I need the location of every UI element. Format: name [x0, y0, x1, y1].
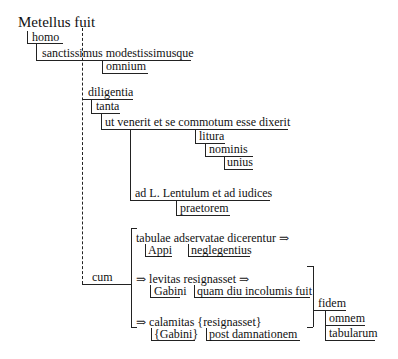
bracket-tick — [131, 228, 137, 229]
node-tanta: tanta — [96, 99, 119, 113]
underline — [102, 73, 148, 74]
node-praetorem: praetorem — [180, 201, 229, 215]
node-gabini: Gabini — [154, 284, 187, 298]
connector — [195, 129, 196, 143]
dashed-trunk — [82, 28, 83, 284]
connector — [224, 156, 225, 169]
connector — [188, 244, 189, 256]
connector — [130, 129, 131, 200]
node-tabularum: tabularum — [329, 326, 378, 340]
connector — [194, 285, 195, 297]
underline — [325, 340, 375, 341]
node-cum: cum — [92, 270, 113, 284]
node-diligentia: diligentia — [88, 85, 133, 99]
underline — [176, 215, 230, 216]
connector — [151, 328, 152, 340]
connector — [101, 113, 102, 129]
connector — [150, 285, 151, 297]
left-bracket — [131, 228, 132, 327]
underline — [82, 284, 131, 285]
node-post-damnationem: post damnationem — [209, 327, 297, 341]
node-gabini-braced: {Gabini} — [154, 327, 198, 341]
underline — [224, 169, 253, 170]
connector — [27, 31, 28, 43]
node-ad-lentulum: ad L. Lentulum et ad iudices — [135, 186, 272, 200]
bracket-tick — [307, 266, 313, 267]
node-neglegentius: neglegentius — [191, 243, 252, 257]
node-homo: homo — [32, 30, 59, 44]
root-clause: Metellus fuit — [18, 14, 95, 31]
connector — [206, 328, 207, 340]
node-omnem: omnem — [329, 311, 365, 325]
right-bracket — [313, 266, 314, 327]
connector — [91, 99, 92, 113]
connector — [102, 60, 103, 73]
node-litura: litura — [199, 129, 224, 143]
bracket-tick — [307, 327, 313, 328]
connector — [145, 244, 146, 256]
node-omnium: omnium — [106, 59, 146, 73]
connector — [36, 43, 37, 60]
node-unius: unius — [227, 155, 253, 169]
underline — [91, 113, 120, 114]
node-quam-diu: quam diu incolumis fuit — [197, 284, 312, 298]
node-appi: Appi — [148, 243, 172, 257]
connector — [176, 200, 177, 215]
connector — [205, 143, 206, 156]
node-fidem: fidem — [318, 296, 346, 310]
node-sanctissimus: sanctissimus modestissimusque — [42, 46, 194, 60]
node-nominis: nominis — [209, 142, 248, 156]
node-ut-venerit: ut venerit et se commotum esse dixerit — [105, 115, 290, 129]
